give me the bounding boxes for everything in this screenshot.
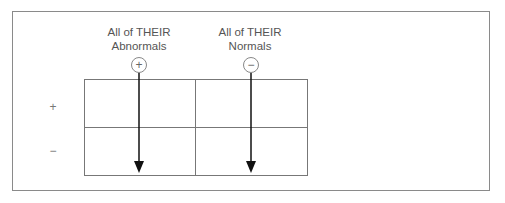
arrows-layer <box>0 0 505 203</box>
down-arrow-icon <box>134 73 144 173</box>
down-arrow-icon <box>246 73 256 173</box>
